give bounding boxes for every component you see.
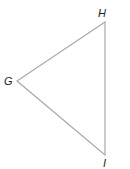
triangle-ghi xyxy=(17,22,105,155)
vertex-label-h: H xyxy=(98,7,106,19)
vertex-label-i: I xyxy=(103,157,106,169)
vertex-label-g: G xyxy=(4,75,13,87)
triangle-diagram: H G I xyxy=(0,0,130,169)
